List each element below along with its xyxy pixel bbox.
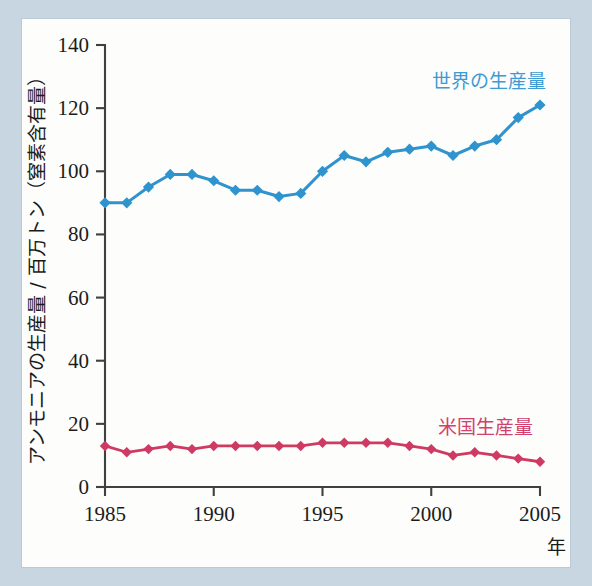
series-line-world (105, 105, 540, 203)
series-label-world: 世界の生産量 (432, 70, 546, 92)
data-point-world (252, 185, 263, 196)
x-tick-label: 1985 (84, 502, 126, 526)
data-point-us (513, 453, 523, 463)
x-tick-label: 2005 (519, 502, 561, 526)
data-point-world (360, 156, 371, 167)
data-series-group (99, 99, 545, 467)
data-point-us (535, 457, 545, 467)
data-point-us (470, 447, 480, 457)
y-tick-label: 40 (68, 349, 89, 373)
data-point-world (447, 150, 458, 161)
data-point-world (186, 169, 197, 180)
y-axis-tick-labels: 020406080100120140 (58, 33, 90, 499)
data-point-us (209, 441, 219, 451)
figure-container: 020406080100120140 19851990199520002005 … (0, 0, 592, 586)
series-label-us: 米国生産量 (438, 416, 533, 438)
data-point-world (469, 140, 480, 151)
y-tick-label: 60 (68, 286, 89, 310)
data-point-us (230, 441, 240, 451)
x-axis-title: 年 (547, 536, 566, 558)
data-point-us (339, 438, 349, 448)
y-tick-label: 140 (58, 33, 90, 57)
data-point-world (426, 140, 437, 151)
data-point-us (317, 438, 327, 448)
line-chart: 020406080100120140 19851990199520002005 … (0, 0, 592, 586)
data-point-us (100, 441, 110, 451)
x-axis-ticks (105, 487, 540, 496)
data-point-us (165, 441, 175, 451)
data-point-us (426, 444, 436, 454)
x-tick-label: 1990 (193, 502, 235, 526)
data-point-world (273, 191, 284, 202)
y-tick-label: 0 (79, 475, 90, 499)
y-tick-label: 80 (68, 222, 89, 246)
data-point-us (122, 447, 132, 457)
data-point-us (187, 444, 197, 454)
data-point-world (404, 144, 415, 155)
data-point-us (296, 441, 306, 451)
x-axis-tick-labels: 19851990199520002005 (84, 502, 561, 526)
data-point-us (274, 441, 284, 451)
x-tick-label: 2000 (410, 502, 452, 526)
data-point-us (404, 441, 414, 451)
y-tick-label: 120 (58, 96, 90, 120)
data-point-us (448, 450, 458, 460)
data-point-us (143, 444, 153, 454)
y-tick-label: 20 (68, 412, 89, 436)
data-point-world (99, 197, 110, 208)
data-point-world (208, 175, 219, 186)
x-tick-label: 1995 (302, 502, 344, 526)
data-point-us (252, 441, 262, 451)
data-point-world (230, 185, 241, 196)
data-point-world (382, 147, 393, 158)
data-point-us (383, 438, 393, 448)
data-point-us (361, 438, 371, 448)
data-point-us (491, 450, 501, 460)
y-tick-label: 100 (58, 159, 90, 183)
y-axis-ticks (96, 45, 105, 487)
y-axis-title: アンモニアの生産量 / 百万トン（窒素含有量） (26, 67, 48, 464)
